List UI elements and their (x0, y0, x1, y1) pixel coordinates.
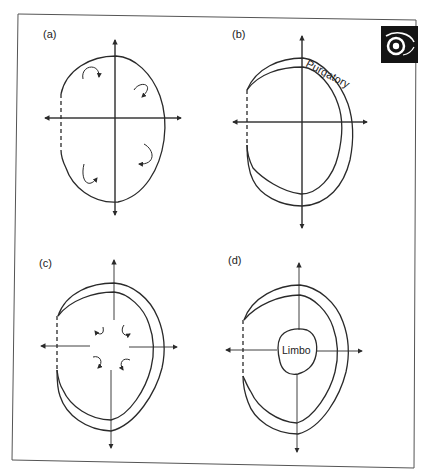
eye-icon (381, 26, 418, 63)
panel-a (45, 40, 181, 215)
figure-frame (12, 14, 416, 468)
panel-label-c: (c) (39, 257, 52, 269)
panel-c (41, 260, 177, 448)
state-boundary (61, 56, 165, 202)
panel-label-a: (a) (43, 28, 56, 40)
panel-label-d: (d) (228, 254, 241, 266)
panel-label-b: (b) (232, 28, 245, 40)
panel-d (226, 263, 362, 452)
figure-diagram: (a) Purgatory (b) (c) (0, 0, 431, 476)
limbo-label: Limbo (282, 344, 311, 356)
panel-b (233, 36, 367, 228)
inner-boundary (247, 67, 342, 194)
